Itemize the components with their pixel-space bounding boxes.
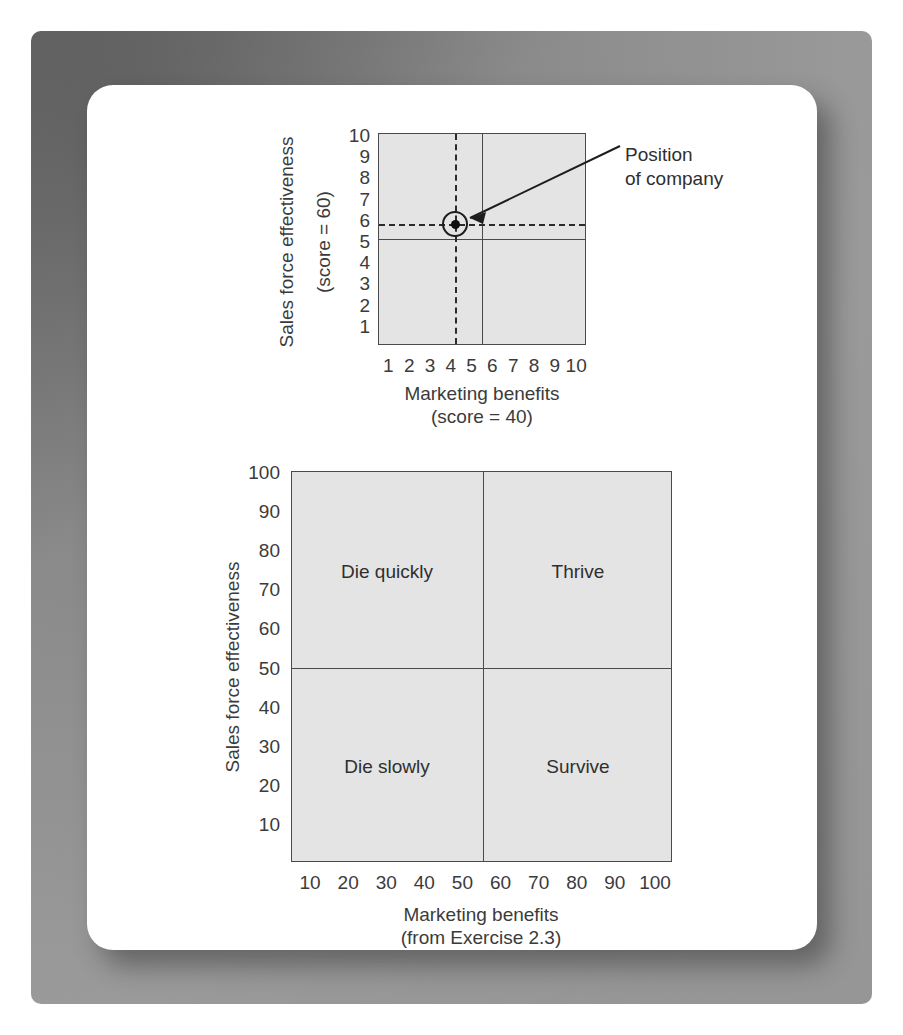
quadrant-label-survive: Survive xyxy=(483,757,673,776)
bottom-chart-xtick-30: 30 xyxy=(367,873,405,892)
top-chart-xtick-10: 10 xyxy=(564,356,588,375)
top-chart-xtick-7: 7 xyxy=(503,356,524,375)
figure-page: 10 9 8 7 6 5 4 3 2 1 1 2 3 4 5 6 7 8 9 1… xyxy=(0,0,903,1035)
top-chart-xtick-3: 3 xyxy=(420,356,441,375)
bottom-chart-xtick-80: 80 xyxy=(558,873,596,892)
quadrant-label-die-quickly: Die quickly xyxy=(292,562,482,581)
top-chart-ytick-1: 1 xyxy=(338,317,370,336)
bottom-chart-xtick-50: 50 xyxy=(443,873,481,892)
bottom-chart-ytick-10: 10 xyxy=(234,815,280,834)
top-chart-ytick-5: 5 xyxy=(338,232,370,251)
bottom-chart-divider-vertical xyxy=(483,472,484,861)
top-chart-ytick-3: 3 xyxy=(338,274,370,293)
quadrant-label-thrive: Thrive xyxy=(483,562,673,581)
top-chart-ylabel: Sales force effectiveness xyxy=(275,122,299,362)
top-chart-xlabel: Marketing benefits xyxy=(362,382,602,405)
top-chart-ytick-6: 6 xyxy=(338,211,370,230)
bottom-chart-xtick-60: 60 xyxy=(482,873,520,892)
bottom-chart-xlabel: Marketing benefits xyxy=(361,903,601,926)
bottom-chart-xtick-40: 40 xyxy=(405,873,443,892)
top-chart-ytick-7: 7 xyxy=(338,190,370,209)
top-chart-ytick-2: 2 xyxy=(338,296,370,315)
top-chart-xtick-1: 1 xyxy=(378,356,399,375)
top-chart-xtick-9: 9 xyxy=(544,356,565,375)
top-chart-ytick-8: 8 xyxy=(338,168,370,187)
bottom-chart-xlabel-sub: (from Exercise 2.3) xyxy=(361,926,601,949)
bottom-chart-ytick-100: 100 xyxy=(234,463,280,482)
top-chart-ytick-4: 4 xyxy=(338,253,370,272)
bottom-chart-xtick-10: 10 xyxy=(291,873,329,892)
bottom-chart-xtick-90: 90 xyxy=(596,873,634,892)
position-of-company-annotation: Position of company xyxy=(625,143,805,191)
top-chart-xtick-2: 2 xyxy=(399,356,420,375)
top-chart-xlabel-sub: (score = 40) xyxy=(362,405,602,428)
top-chart-ylabel-sub: (score = 60) xyxy=(312,122,336,362)
top-chart-xtick-6: 6 xyxy=(482,356,503,375)
top-chart-ytick-9: 9 xyxy=(338,147,370,166)
top-chart-xtick-5: 5 xyxy=(461,356,482,375)
bottom-chart-xtick-100: 100 xyxy=(633,873,677,892)
top-chart-xtick-4: 4 xyxy=(440,356,461,375)
top-chart-ytick-10: 10 xyxy=(338,126,370,145)
bottom-chart-ylabel: Sales force effectiveness xyxy=(221,527,245,807)
quadrant-label-die-slowly: Die slowly xyxy=(292,757,482,776)
bottom-chart-divider-horizontal xyxy=(292,668,671,669)
bottom-chart-xtick-20: 20 xyxy=(329,873,367,892)
bottom-chart-ytick-90: 90 xyxy=(234,502,280,521)
position-of-company-leader-line xyxy=(448,138,628,238)
bottom-chart-xtick-70: 70 xyxy=(520,873,558,892)
bottom-chart-plot-area: Die quickly Thrive Die slowly Survive xyxy=(291,471,672,862)
top-chart-xtick-8: 8 xyxy=(524,356,545,375)
